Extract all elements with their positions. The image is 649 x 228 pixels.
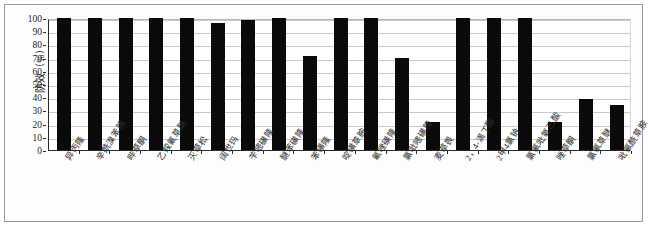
y-axis-tick-mark <box>43 98 46 99</box>
bar <box>395 58 409 150</box>
y-axis-tick-mark <box>43 138 46 139</box>
y-axis-tick-label: 50 <box>33 81 43 89</box>
x-axis-labels: 异丙隆辛酰溴苯腈哔草酮乙羧氟草醚灭草松阔世玛苄嘧磺隆醚苯磺隆苯磺隆啶磺草胺氟唑磺… <box>48 152 631 220</box>
y-axis-tick-mark <box>43 85 46 86</box>
y-axis-tick-label: 90 <box>33 28 43 36</box>
y-axis-tick-label: 40 <box>33 94 43 102</box>
chart-figure: 防效（%） 0102030405060708090100 异丙隆辛酰溴苯腈哔草酮… <box>4 4 643 222</box>
bar <box>579 99 593 150</box>
y-axis-tick-label: 70 <box>33 55 43 63</box>
bar <box>303 56 317 150</box>
y-axis-tick-label: 80 <box>33 41 43 49</box>
y-axis-tick-mark <box>43 125 46 126</box>
y-axis-tick-label: 10 <box>33 134 43 142</box>
y-axis-tick-label: 60 <box>33 68 43 76</box>
bar <box>456 18 470 150</box>
bar <box>241 20 255 150</box>
y-axis-tick-label: 100 <box>28 15 42 23</box>
y-axis-tick-mark <box>43 111 46 112</box>
bar <box>211 23 225 150</box>
y-axis-tick-label: 30 <box>33 107 43 115</box>
bar <box>57 18 71 150</box>
bar <box>88 18 102 150</box>
y-axis-tick-label: 20 <box>33 121 43 129</box>
bar <box>334 18 348 150</box>
y-axis-tick-mark <box>43 151 46 152</box>
y-axis-tick-mark <box>43 19 46 20</box>
y-axis-tick-mark <box>43 72 46 73</box>
bar <box>149 18 163 150</box>
y-axis-tick-mark <box>43 59 46 60</box>
y-axis-tick-mark <box>43 45 46 46</box>
y-axis-tick-label: 0 <box>37 147 42 155</box>
y-axis-tick-mark <box>43 32 46 33</box>
y-axis-ticks: 0102030405060708090100 <box>5 13 46 157</box>
